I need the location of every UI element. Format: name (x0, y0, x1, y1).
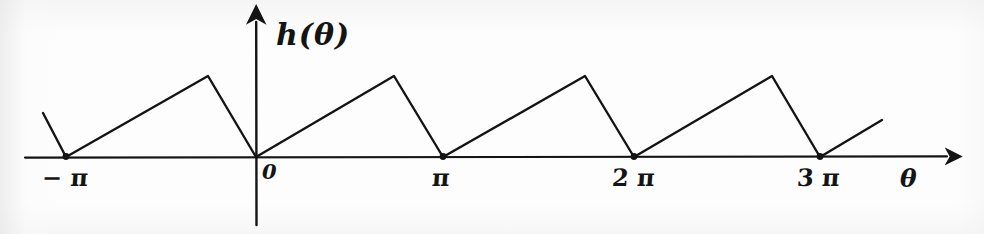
tick-label-2pi: 2 π (611, 166, 655, 190)
tick-label-3pi: 3 π (796, 166, 840, 190)
tick-label-pi: π (431, 166, 450, 190)
zero-crossing-dot-pi (440, 153, 447, 160)
x-axis-label: θ (900, 166, 917, 191)
zero-crossing-dot-3pi (817, 153, 824, 160)
x-axis (25, 156, 947, 157)
figure-root: h(θ) θ 0 − π π 2 π 3 π (0, 0, 984, 234)
y-axis-label: h(θ) (276, 20, 350, 50)
sawtooth-curve (43, 76, 882, 157)
graph-canvas (0, 0, 984, 234)
zero-crossing-dot-2pi (631, 153, 638, 160)
tick-label-neg-pi: − π (41, 166, 89, 190)
zero-crossing-dot-neg-pi (63, 153, 70, 160)
tick-label-origin: 0 (262, 161, 277, 182)
